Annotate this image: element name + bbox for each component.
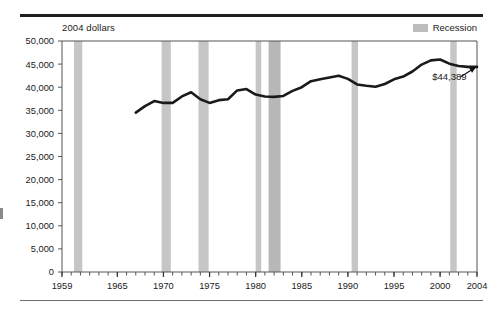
x-axis-tick-label: 1970 (153, 281, 174, 291)
y-axis-tick-label: 15,000 (26, 198, 54, 208)
recession-band (269, 41, 281, 272)
line-chart-plot: 05,00010,00015,00020,00025,00030,00035,0… (0, 0, 503, 309)
y-axis-tick-label: 50,000 (26, 36, 54, 46)
x-axis-tick-label: 2004 (467, 281, 488, 291)
recession-band (198, 41, 208, 272)
y-axis-tick-label: 35,000 (26, 106, 54, 116)
chart-figure: 2004 dollars Recession 05,00010,00015,00… (0, 0, 503, 309)
x-axis-tick-label: 1980 (245, 281, 266, 291)
x-axis-tick-label: 1975 (199, 281, 220, 291)
y-axis-tick-label: 10,000 (26, 221, 54, 231)
y-axis-tick-label: 25,000 (26, 152, 54, 162)
y-axis-tick-label: 30,000 (26, 129, 54, 139)
y-axis-tick-label: 20,000 (26, 175, 54, 185)
x-axis-tick-label: 1995 (384, 281, 405, 291)
x-axis-tick-label: 2000 (430, 281, 451, 291)
recession-band (74, 41, 82, 272)
bottom-divider-rule (20, 300, 483, 301)
x-axis-tick-label: 1965 (107, 281, 128, 291)
recession-band (256, 41, 262, 272)
recession-band (162, 41, 171, 272)
y-axis-tick-label: 45,000 (26, 60, 54, 70)
y-axis-tick-label: 40,000 (26, 83, 54, 93)
recession-band (352, 41, 358, 272)
y-axis-tick-label: 0 (49, 267, 54, 277)
x-axis-tick-label: 1985 (291, 281, 312, 291)
data-line-series (136, 59, 477, 112)
x-axis-tick-label: 1959 (52, 281, 73, 291)
x-axis-tick-label: 1990 (338, 281, 359, 291)
page-edge-mark (0, 208, 3, 219)
y-axis-tick-label: 5,000 (31, 244, 54, 254)
